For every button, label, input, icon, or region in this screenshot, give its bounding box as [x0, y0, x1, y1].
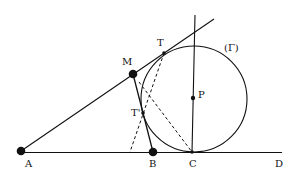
vertical-line-cp [192, 15, 195, 152]
label-t: T [157, 38, 164, 48]
label-c: C [189, 159, 197, 169]
dashed-line-m-to-c [139, 82, 192, 152]
label-m: M [122, 57, 132, 67]
diagram-svg [0, 0, 298, 178]
tangent-line-amt [21, 19, 214, 151]
label-t-prime: T' [131, 108, 140, 118]
label-p: P [198, 90, 205, 100]
point-t-prime-dot [141, 111, 145, 115]
dashed-line-t-to-base [130, 53, 164, 152]
label-d: D [275, 159, 283, 169]
point-a-dot [17, 147, 26, 156]
point-t-dot [162, 51, 166, 55]
point-c-dot [190, 150, 194, 154]
point-p-dot [191, 96, 195, 100]
label-circle-gamma: (Γ) [224, 43, 239, 53]
label-b: B [149, 159, 156, 169]
point-b-dot [149, 148, 158, 157]
point-m-dot [129, 70, 138, 79]
geometry-diagram: A B C D M T T' P (Γ) [0, 0, 298, 178]
label-a: A [25, 159, 32, 169]
